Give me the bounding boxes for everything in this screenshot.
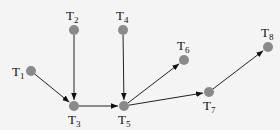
node-T2 xyxy=(69,25,79,35)
task-graph: T1T2T3T4T5T6T7T8 xyxy=(0,0,280,130)
node-T6 xyxy=(179,55,189,65)
node-label-T2: T2 xyxy=(66,8,78,25)
node-T3 xyxy=(69,101,79,111)
node-T1 xyxy=(26,66,36,76)
node-label-T3: T3 xyxy=(68,112,81,129)
edge-T4-T5 xyxy=(123,35,124,100)
edge-T7-T8 xyxy=(213,51,263,89)
node-label-T1: T1 xyxy=(12,64,24,81)
node-label-T4: T4 xyxy=(116,8,129,25)
nodes: T1T2T3T4T5T6T7T8 xyxy=(12,8,274,129)
edges xyxy=(35,35,263,106)
edge-T5-T7 xyxy=(129,93,203,105)
node-label-T7: T7 xyxy=(203,98,216,115)
node-label-T8: T8 xyxy=(261,25,274,42)
node-label-T6: T6 xyxy=(177,38,190,55)
node-T5 xyxy=(119,101,129,111)
node-T4 xyxy=(118,25,128,35)
node-T8 xyxy=(263,42,273,52)
node-label-T5: T5 xyxy=(118,112,131,129)
node-T7 xyxy=(204,87,214,97)
edge-T5-T6 xyxy=(128,64,179,103)
edge-T1-T3 xyxy=(35,74,69,102)
